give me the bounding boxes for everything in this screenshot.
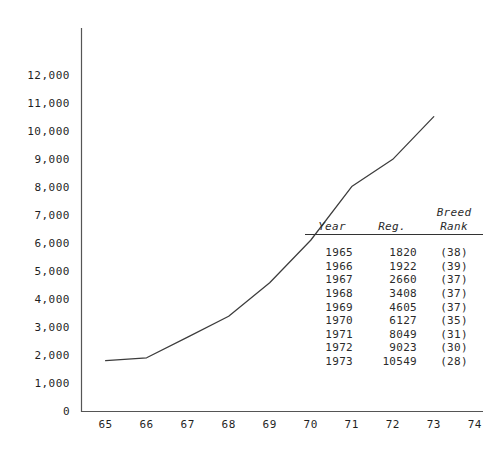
cell-breed-rank: (39) [425,260,483,274]
cell-year: 1971 [305,328,359,342]
cell-registrations: 2660 [359,273,425,287]
y-tick-label: 1,000 [8,377,70,390]
column-header-reg: Reg. [359,206,425,236]
table-header: Year Reg. Breed Rank [305,206,483,236]
table-body: 19651820(38)19661922(39)19672660(37)1968… [305,236,483,368]
y-tick-label: 4,000 [8,293,70,306]
column-header-rank-label: Rank [425,220,483,236]
x-tick-label: 65 [91,418,121,431]
x-tick-label: 66 [132,418,162,431]
line-chart: 12,00011,00010,0009,0008,0007,0006,0005,… [0,0,501,460]
table-row: 19718049(31) [305,328,483,342]
cell-registrations: 3408 [359,287,425,301]
cell-breed-rank: (38) [425,246,483,260]
y-tick-label: 11,000 [8,97,70,110]
column-header-breed-label: Breed [425,206,483,220]
x-tick-label: 69 [255,418,285,431]
table-row: 19729023(30) [305,341,483,355]
cell-breed-rank: (37) [425,287,483,301]
spacer-cell [359,236,425,246]
table-row: 197310549(28) [305,355,483,369]
column-header-year-label: Year [305,220,359,236]
table-row: 19683408(37) [305,287,483,301]
cell-breed-rank: (31) [425,328,483,342]
data-table: Year Reg. Breed Rank 19651820(38)1966192… [305,206,483,369]
y-tick-label: 9,000 [8,153,70,166]
y-tick-label: 5,000 [8,265,70,278]
table-header-row: Year Reg. Breed Rank [305,206,483,236]
cell-registrations: 4605 [359,301,425,315]
cell-year: 1966 [305,260,359,274]
column-header-year: Year [305,206,359,236]
column-header-breed-rank: Breed Rank [425,206,483,236]
table-row: 19661922(39) [305,260,483,274]
cell-year: 1972 [305,341,359,355]
table-spacer-row [305,236,483,246]
registration-table: Year Reg. Breed Rank 19651820(38)1966192… [305,206,483,369]
cell-year: 1965 [305,246,359,260]
y-tick-label: 3,000 [8,321,70,334]
table-row: 19694605(37) [305,301,483,315]
cell-breed-rank: (37) [425,273,483,287]
cell-year: 1968 [305,287,359,301]
y-tick-label: 2,000 [8,349,70,362]
table-row: 19651820(38) [305,246,483,260]
cell-registrations: 9023 [359,341,425,355]
cell-breed-rank: (30) [425,341,483,355]
table-row: 19672660(37) [305,273,483,287]
cell-year: 1969 [305,301,359,315]
x-tick-label: 68 [214,418,244,431]
x-tick-label: 71 [337,418,367,431]
cell-registrations: 1820 [359,246,425,260]
cell-registrations: 6127 [359,314,425,328]
x-tick-label: 67 [173,418,203,431]
table-row: 19706127(35) [305,314,483,328]
cell-registrations: 1922 [359,260,425,274]
y-tick-label: 6,000 [8,237,70,250]
y-tick-label: 7,000 [8,209,70,222]
spacer-cell [425,236,483,246]
y-tick-label: 8,000 [8,181,70,194]
column-header-reg-label: Reg. [359,220,425,236]
x-tick-label: 70 [296,418,326,431]
cell-registrations: 10549 [359,355,425,369]
cell-breed-rank: (35) [425,314,483,328]
cell-year: 1967 [305,273,359,287]
x-tick-label: 74 [460,418,490,431]
y-tick-label: 0 [8,405,70,418]
column-header-reg-top [359,206,425,220]
spacer-cell [305,236,359,246]
y-tick-label: 12,000 [8,69,70,82]
y-tick-label: 10,000 [8,125,70,138]
cell-year: 1970 [305,314,359,328]
column-header-year-top [305,206,359,220]
cell-registrations: 8049 [359,328,425,342]
cell-breed-rank: (37) [425,301,483,315]
cell-breed-rank: (28) [425,355,483,369]
cell-year: 1973 [305,355,359,369]
x-tick-label: 73 [419,418,449,431]
x-tick-label: 72 [378,418,408,431]
